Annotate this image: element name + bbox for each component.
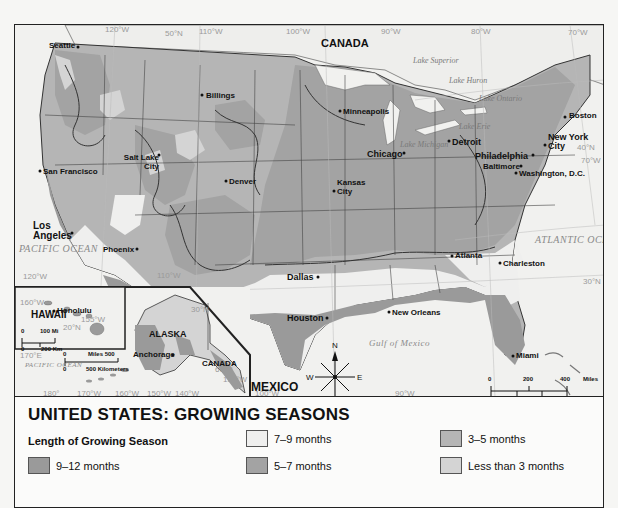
legend-label-lt3: Less than 3 months — [468, 460, 564, 472]
legend-swatch-5-7 — [246, 457, 268, 474]
lake-label-ontario: Lake Ontario — [479, 95, 513, 103]
grid-label-110w-south: 110°W — [157, 271, 181, 280]
grid-label-120w: 120°W — [105, 25, 129, 34]
city-phoenix: Phoenix — [103, 245, 134, 254]
city-denver: Denver — [229, 177, 256, 186]
grid-label-110w: 110°W — [199, 27, 223, 36]
grid-label-120w-west: 120°W — [23, 272, 47, 281]
legend-item-5-7: 5–7 months — [246, 457, 331, 474]
legend-label-7-9: 7–9 months — [274, 433, 331, 445]
grid-label-hi-20n: 20°N — [63, 323, 81, 332]
ak-scale-miles-500: Miles 500 — [88, 351, 115, 357]
legend-item-lt3: Less than 3 months — [440, 457, 564, 474]
grid-label-100w: 100°W — [286, 27, 310, 36]
hi-scale-km-0: 0 — [21, 346, 24, 352]
city-minneapolis: Minneapolis — [343, 107, 389, 116]
legend-subtitle: Length of Growing Season — [28, 435, 168, 447]
legend-swatch-9-12 — [28, 457, 50, 474]
city-houston: Houston — [287, 313, 324, 323]
city-miami: Miami — [516, 351, 539, 360]
grid-label-30n: 30°N — [583, 277, 601, 286]
legend-swatch-3-5 — [440, 430, 462, 447]
lake-label-huron: Lake Huron — [449, 77, 479, 85]
grid-label-90w: 90°W — [381, 27, 401, 36]
city-charleston: Charleston — [503, 259, 545, 268]
grid-label-70w-east: 70°W — [581, 156, 601, 165]
compass-e: E — [357, 373, 362, 382]
scale-miles-200: 200 — [523, 376, 533, 382]
legend-item-7-9: 7–9 months — [246, 430, 331, 447]
compass-w: W — [306, 373, 314, 382]
legend-swatch-lt3 — [440, 457, 462, 474]
legend-label-9-12: 9–12 months — [56, 460, 120, 472]
legend-label-5-7: 5–7 months — [274, 460, 331, 472]
city-salt-lake-city: Salt Lake City — [119, 153, 159, 171]
city-baltimore: Baltimore — [483, 162, 520, 171]
city-los-angeles: Los Angeles — [33, 221, 73, 241]
lake-label-michigan: Lake Michigan — [400, 141, 430, 149]
grid-label-ak-130w: 130°W — [223, 375, 247, 384]
city-detroit: Detroit — [452, 137, 481, 147]
city-washington-dc: Washington, D.C. — [519, 169, 585, 178]
city-new-orleans: New Orleans — [392, 308, 440, 317]
grid-label-ak-60n: 60°N — [215, 365, 233, 374]
legend-label-3-5: 3–5 months — [468, 433, 525, 445]
city-kansas-city: Kansas City — [337, 178, 367, 196]
us-map — [15, 25, 604, 398]
ak-scale-km-500: 500 Kilometers — [86, 366, 129, 372]
city-honolulu: Honolulu — [57, 306, 92, 315]
ocean-label-pacific: PACIFIC OCEAN — [19, 244, 89, 254]
lake-label-erie: Lake Erie — [459, 123, 483, 131]
country-label-canada: CANADA — [321, 37, 369, 49]
city-san-francisco: San Francisco — [43, 167, 98, 176]
legend-swatch-7-9 — [246, 430, 268, 447]
compass-n: N — [332, 341, 338, 350]
legend-panel: UNITED STATES: GROWING SEASONS Length of… — [14, 396, 604, 508]
hi-scale-miles-100: 100 Mi — [40, 328, 58, 334]
city-dallas: Dallas — [287, 272, 314, 282]
city-philadelphia: Philadelphia — [475, 151, 528, 161]
city-boston: Boston — [569, 111, 597, 120]
grid-label-hi-155w: 155°W — [81, 315, 105, 324]
grid-label-50n: 50°N — [165, 29, 183, 38]
ak-scale-km-0: 0 — [63, 366, 66, 372]
city-billings: Billings — [206, 91, 235, 100]
grid-label-30n-west: 30°N — [191, 305, 209, 314]
city-anchorage: Anchorage — [133, 350, 175, 359]
legend-title: UNITED STATES: GROWING SEASONS — [28, 405, 350, 425]
city-atlanta: Atlanta — [455, 251, 482, 260]
hi-scale-miles-0: 0 — [21, 328, 24, 334]
ocean-label-gulf: Gulf of Mexico — [369, 338, 430, 348]
city-chicago: Chicago — [367, 149, 403, 159]
scale-miles-unit: Miles — [583, 376, 598, 382]
legend-item-9-12: 9–12 months — [28, 457, 120, 474]
map-frame: CANADA MEXICO CANADA HAWAII ALASKA PACIF… — [14, 24, 604, 422]
scale-miles-0: 0 — [488, 376, 491, 382]
grid-label-hi-160w: 160°W — [20, 298, 44, 307]
city-seattle: Seattle — [49, 41, 75, 50]
inset-label-alaska: ALASKA — [149, 329, 187, 339]
lake-label-superior: Lake Superior — [413, 57, 453, 65]
grid-label-ak-170e: 170°E — [20, 351, 42, 360]
scale-miles-400: 400 — [560, 376, 570, 382]
ocean-label-atlantic: ATLANTIC OCEAN — [535, 235, 604, 245]
grid-label-40n: 40°N — [577, 143, 595, 152]
grid-label-80w: 80°W — [471, 27, 491, 36]
hi-scale-km-200: 200 Km — [41, 346, 62, 352]
grid-label-70w: 70°W — [568, 28, 588, 37]
legend-item-3-5: 3–5 months — [440, 430, 525, 447]
ak-scale-miles-0: 0 — [63, 351, 66, 357]
